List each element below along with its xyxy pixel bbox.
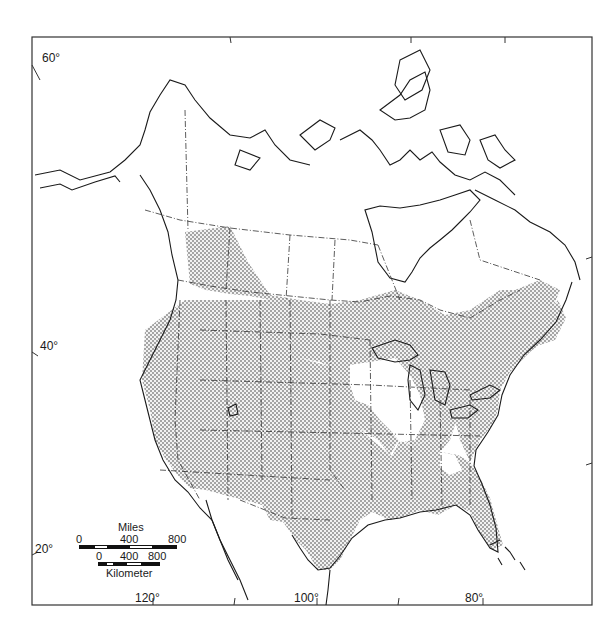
range-map: 60° 40° 20° 120° 100° 80° Miles 0 400 80… [0,0,613,642]
shaded-range [142,226,566,570]
scale-miles-tick-800: 800 [168,533,186,545]
scale-km-tick-400: 400 [120,550,138,562]
longitude-label-120: 120° [135,592,160,604]
scale-miles-title: Miles [118,521,144,533]
latitude-label-20: 20° [35,543,53,555]
map-canvas [0,0,613,642]
longitude-label-80: 80° [465,592,483,604]
scale-km-tick-0: 0 [96,550,102,562]
longitude-label-100: 100° [294,592,319,604]
latitude-label-60: 60° [42,52,60,64]
scale-km-tick-800: 800 [148,550,166,562]
scale-miles-tick-400: 400 [120,533,138,545]
latitude-label-40: 40° [40,340,58,352]
scale-miles-tick-0: 0 [76,533,82,545]
scale-km-title: Kilometer [106,567,152,579]
